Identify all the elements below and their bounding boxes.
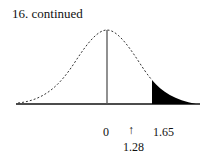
bell-curve	[18, 30, 152, 103]
shaded-tail	[152, 80, 196, 104]
normal-curve-diagram	[0, 0, 223, 163]
arrow-icon: ↑	[128, 123, 134, 138]
label-z-high: 1.65	[153, 125, 174, 140]
label-zero: 0	[103, 125, 109, 140]
label-z-marked: 1.28	[123, 140, 144, 155]
